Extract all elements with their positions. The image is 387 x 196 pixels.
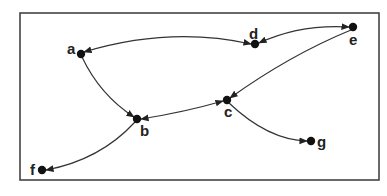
node-f [38, 166, 46, 174]
edge-a-d [84, 37, 251, 52]
edge-d-e [259, 27, 349, 43]
node-label-a: a [67, 40, 76, 57]
node-label-b: b [140, 122, 149, 139]
node-label-e: e [349, 31, 357, 48]
edge-a-b [82, 57, 134, 117]
node-g [307, 137, 315, 145]
node-e [349, 23, 357, 31]
edge-b-f [46, 122, 135, 170]
node-label-f: f [30, 161, 36, 178]
diagram-frame [20, 13, 379, 180]
edge-b-c [141, 101, 223, 119]
graph-diagram: abcdefg [0, 0, 387, 196]
edge-c-g [229, 103, 307, 141]
node-a [77, 50, 85, 58]
node-label-c: c [224, 103, 232, 120]
node-label-d: d [249, 25, 258, 42]
nodes-group: abcdefg [30, 23, 357, 178]
node-label-g: g [317, 133, 326, 150]
edges-group [46, 27, 351, 170]
